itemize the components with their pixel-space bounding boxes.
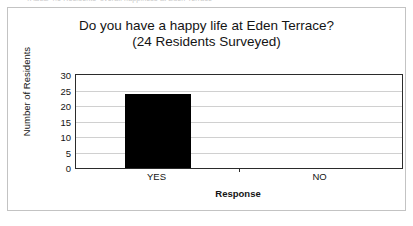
x-axis-tick-label: YES <box>147 171 166 182</box>
y-axis-tick-label: 25 <box>60 85 71 96</box>
chart-title: Do you have a happy life at Eden Terrace… <box>8 18 405 33</box>
chart-card: Do you have a happy life at Eden Terrace… <box>7 7 406 211</box>
plot-area: 051015202530 <box>75 74 403 169</box>
y-axis-title: Number of Residents <box>21 37 32 147</box>
bar-yes <box>125 94 191 168</box>
y-axis-tick-label: 15 <box>60 116 71 127</box>
chart-subtitle: (24 Residents Surveyed) <box>8 34 405 49</box>
x-axis-title: Response <box>75 188 401 199</box>
y-axis-tick-label: 0 <box>66 163 71 174</box>
y-axis-tick-label: 5 <box>66 147 71 158</box>
x-axis-tick-label: NO <box>312 171 326 182</box>
y-axis-tick-label: 30 <box>60 70 71 81</box>
gridline <box>76 91 402 92</box>
x-axis-category-divider-tick <box>239 168 240 172</box>
cropped-caption-strip: TABLE 4.1 Residents' overall happiness a… <box>0 0 413 7</box>
y-axis-tick-label: 20 <box>60 101 71 112</box>
y-axis-tick-label: 10 <box>60 132 71 143</box>
cropped-caption-text: TABLE 4.1 Residents' overall happiness a… <box>26 0 212 2</box>
